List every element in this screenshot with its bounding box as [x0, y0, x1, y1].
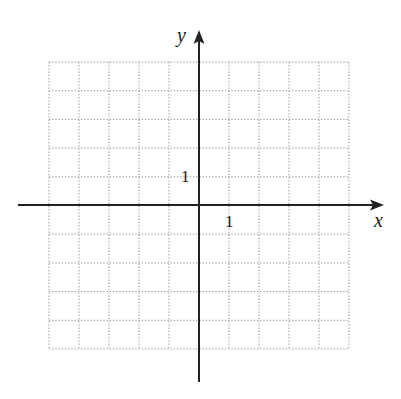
y-axis-label: y [175, 24, 186, 47]
y-unit-tick-label: 1 [181, 167, 190, 186]
x-axis-label: x [373, 209, 383, 231]
coordinate-plane: x y 1 1 [0, 0, 401, 399]
x-unit-tick-label: 1 [225, 212, 234, 231]
